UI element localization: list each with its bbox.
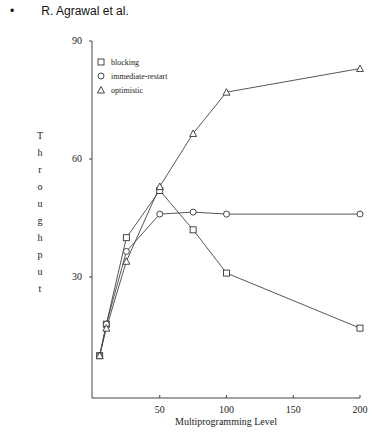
triangle-marker-icon	[156, 183, 163, 190]
triangle-marker-icon	[98, 87, 105, 94]
circle-marker-icon	[98, 73, 104, 79]
legend-label: optimistic	[111, 86, 143, 95]
square-marker-icon	[357, 325, 363, 331]
square-marker-icon	[123, 235, 129, 241]
circle-marker-icon	[123, 248, 129, 254]
square-marker-icon	[190, 227, 196, 233]
series-line-optimistic	[100, 69, 360, 356]
y-tick-label: 60	[72, 153, 82, 164]
legend-label: blocking	[111, 58, 139, 67]
circle-marker-icon	[190, 209, 196, 215]
circle-marker-icon	[357, 211, 363, 217]
series-lines	[100, 69, 360, 356]
x-axis-label: Multiprogramming Level	[175, 416, 277, 427]
series-markers	[96, 65, 363, 359]
square-marker-icon	[224, 270, 230, 276]
circle-marker-icon	[224, 211, 230, 217]
y-tick-label: 30	[72, 271, 82, 282]
legend: blockingimmediate-restartoptimistic	[98, 58, 169, 95]
triangle-marker-icon	[357, 65, 364, 72]
x-tick-label: 200	[353, 404, 368, 415]
x-tick-label: 50	[155, 404, 165, 415]
legend-label: immediate-restart	[111, 72, 168, 81]
circle-marker-icon	[157, 211, 163, 217]
y-tick-label: 90	[72, 35, 82, 46]
x-tick-label: 150	[286, 404, 301, 415]
x-tick-label: 100	[219, 404, 234, 415]
throughput-chart: 50100150200306090 blockingimmediate-rest…	[0, 0, 380, 442]
square-marker-icon	[98, 59, 104, 65]
